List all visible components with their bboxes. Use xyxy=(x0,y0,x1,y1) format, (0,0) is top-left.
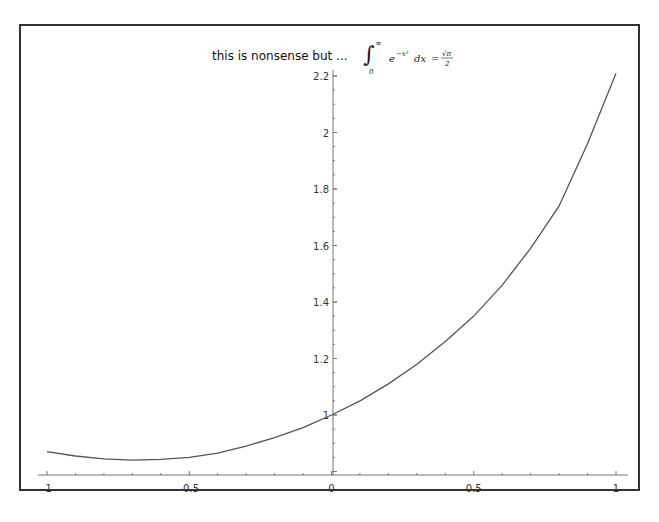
line-chart: -1-0.500.5111.21.41.61.822.2 this is non… xyxy=(0,0,659,522)
data-curve xyxy=(47,73,616,460)
svg-text:√π: √π xyxy=(442,50,451,58)
y-tick-label: 1 xyxy=(323,410,329,421)
chart-title: this is nonsense but ... xyxy=(212,49,348,63)
x-tick-label: 0 xyxy=(328,483,334,494)
y-tick-label: 1.4 xyxy=(313,297,329,308)
svg-text:0: 0 xyxy=(369,68,374,76)
svg-text:∫: ∫ xyxy=(363,42,375,67)
svg-text:−x²: −x² xyxy=(396,50,409,58)
title-math-formula: ∫ ∞ 0 e −x² dx = √π 2 xyxy=(363,39,453,76)
x-tick-label: -0.5 xyxy=(179,483,199,494)
y-tick-label: 2 xyxy=(323,128,329,139)
x-tick-label: 0.5 xyxy=(466,483,482,494)
svg-text:2: 2 xyxy=(444,60,450,68)
svg-text:∞: ∞ xyxy=(375,39,382,48)
y-tick-label: 1.2 xyxy=(313,354,329,365)
x-tick-label: -1 xyxy=(42,483,52,494)
svg-text:=: = xyxy=(431,53,439,64)
svg-text:dx: dx xyxy=(414,53,426,64)
axes: -1-0.500.5111.21.41.61.822.2 xyxy=(38,70,628,494)
svg-text:e: e xyxy=(389,53,395,64)
y-tick-label: 2.2 xyxy=(313,71,329,82)
y-tick-label: 1.6 xyxy=(313,241,329,252)
x-tick-label: 1 xyxy=(613,483,619,494)
y-tick-label: 1.8 xyxy=(313,184,329,195)
